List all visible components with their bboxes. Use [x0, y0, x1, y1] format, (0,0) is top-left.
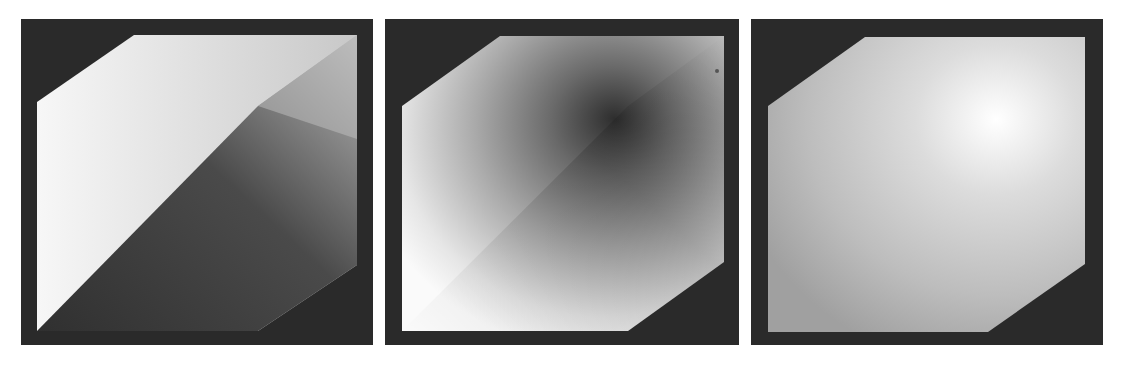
- cube-radial-shaded-image: [385, 19, 739, 345]
- cube-smooth-shaded-image: [751, 19, 1103, 345]
- figure-caption: [20, 355, 90, 361]
- cube-flat-shaded-image: [21, 19, 373, 345]
- cube-panel-1: [21, 19, 373, 345]
- cube-panel-3: [751, 19, 1103, 345]
- cube-panel-2: [385, 19, 739, 345]
